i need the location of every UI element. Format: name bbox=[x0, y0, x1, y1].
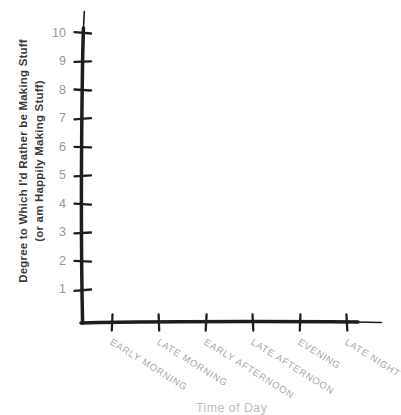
y-tick bbox=[75, 204, 92, 205]
y-tick-label-10: 10 bbox=[36, 25, 66, 42]
y-axis-title: Degree to Which I'd Rather be Making Stu… bbox=[16, 1, 47, 321]
y-tick bbox=[75, 175, 92, 176]
y-tick bbox=[75, 290, 92, 291]
y-tick-label-5: 5 bbox=[36, 167, 66, 184]
y-axis-title-line1: Degree to Which I'd Rather be Making Stu… bbox=[16, 1, 32, 321]
y-tick-label-4: 4 bbox=[36, 196, 66, 213]
y-tick bbox=[75, 261, 92, 262]
x-tick bbox=[112, 315, 113, 331]
y-axis-title-line2: (or am Happily Making Stuff) bbox=[31, 1, 47, 321]
x-tick bbox=[346, 315, 347, 331]
x-tick bbox=[253, 315, 254, 331]
x-tick bbox=[206, 315, 207, 331]
y-tick bbox=[75, 147, 92, 148]
y-tick-label-3: 3 bbox=[36, 224, 66, 241]
y-tick-label-8: 8 bbox=[36, 82, 66, 99]
y-tick-label-2: 2 bbox=[36, 253, 66, 270]
y-tick-label-6: 6 bbox=[36, 139, 66, 156]
x-tick bbox=[159, 315, 160, 331]
y-tick-label-9: 9 bbox=[36, 53, 66, 70]
x-tick bbox=[300, 315, 301, 331]
y-tick-label-1: 1 bbox=[36, 281, 66, 298]
x-axis-line bbox=[81, 322, 358, 323]
y-tick bbox=[75, 61, 92, 62]
y-tick-label-7: 7 bbox=[36, 110, 66, 127]
y-tick bbox=[75, 233, 92, 234]
y-tick bbox=[75, 118, 92, 119]
y-tick bbox=[75, 90, 92, 91]
x-axis-title: Time of Day bbox=[196, 401, 267, 415]
x-axis-line-tip bbox=[354, 322, 382, 323]
y-tick bbox=[75, 32, 92, 33]
